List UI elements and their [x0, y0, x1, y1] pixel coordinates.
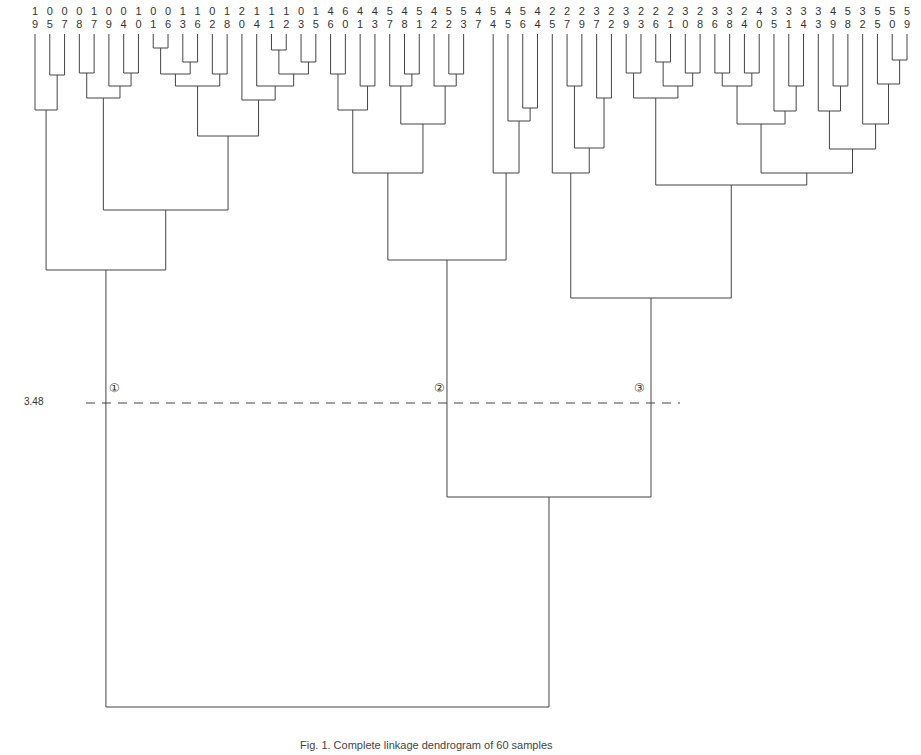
- leaf-label: 1: [224, 5, 230, 17]
- leaf-label: 0: [121, 5, 127, 17]
- leaf-label: 4: [431, 5, 437, 17]
- leaf-label: 7: [91, 18, 97, 30]
- leaf-label: 6: [653, 18, 659, 30]
- leaf-label: 4: [328, 5, 334, 17]
- leaf-label: 5: [47, 18, 53, 30]
- cluster-1-marker: ①: [109, 381, 120, 395]
- leaf-label: 7: [594, 18, 600, 30]
- leaf-label: 4: [254, 18, 260, 30]
- leaf-label: 5: [416, 5, 422, 17]
- leaf-label: 3: [372, 18, 378, 30]
- leaf-label: 6: [342, 5, 348, 17]
- leaf-label: 5: [845, 5, 851, 17]
- leaf-label: 4: [830, 5, 836, 17]
- leaf-label: 5: [889, 5, 895, 17]
- leaf-label: 6: [520, 18, 526, 30]
- leaf-label: 6: [165, 18, 171, 30]
- leaf-label: 0: [150, 5, 156, 17]
- leaf-label: 2: [579, 5, 585, 17]
- leaf-label: 1: [91, 5, 97, 17]
- leaf-label: 3: [860, 5, 866, 17]
- leaf-label: 4: [490, 18, 496, 30]
- leaf-label: 1: [268, 18, 274, 30]
- leaf-label: 5: [490, 5, 496, 17]
- leaf-label: 0: [47, 5, 53, 17]
- leaf-label: 0: [106, 5, 112, 17]
- leaf-label: 4: [357, 5, 363, 17]
- leaf-label: 5: [387, 5, 393, 17]
- leaf-label: 3: [180, 18, 186, 30]
- leaf-label: 2: [638, 5, 644, 17]
- leaf-label: 7: [387, 18, 393, 30]
- leaf-label: 8: [727, 18, 733, 30]
- leaf-label: 8: [845, 18, 851, 30]
- dendrogram-branches: [35, 34, 907, 707]
- leaf-label: 9: [623, 18, 629, 30]
- leaf-label: 0: [61, 5, 67, 17]
- leaf-label: 2: [653, 5, 659, 17]
- leaf-label: 2: [239, 5, 245, 17]
- cluster-2-marker: ②: [434, 381, 445, 395]
- leaf-label: 2: [608, 5, 614, 17]
- leaf-label: 3: [815, 5, 821, 17]
- leaf-label: 7: [61, 18, 67, 30]
- leaf-label: 2: [209, 18, 215, 30]
- leaf-label: 2: [608, 18, 614, 30]
- leaf-label: 2: [431, 18, 437, 30]
- leaf-label: 5: [446, 5, 452, 17]
- leaf-label: 5: [505, 18, 511, 30]
- leaf-label: 8: [76, 18, 82, 30]
- leaf-label: 8: [401, 18, 407, 30]
- leaf-label: 4: [534, 18, 540, 30]
- leaf-label: 1: [195, 5, 201, 17]
- leaf-label: 0: [239, 18, 245, 30]
- leaf-label: 2: [446, 18, 452, 30]
- leaf-label: 0: [682, 18, 688, 30]
- leaf-label: 1: [180, 5, 186, 17]
- leaf-label: 4: [756, 5, 762, 17]
- leaf-label: 2: [667, 5, 673, 17]
- leaf-label: 2: [564, 5, 570, 17]
- leaf-label: 9: [904, 18, 910, 30]
- leaf-label: 4: [475, 5, 481, 17]
- leaf-label: 9: [106, 18, 112, 30]
- leaf-label: 5: [313, 18, 319, 30]
- leaf-label: 2: [283, 18, 289, 30]
- leaf-label: 5: [520, 5, 526, 17]
- leaf-label: 4: [534, 5, 540, 17]
- leaf-label: 4: [372, 5, 378, 17]
- leaf-label: 9: [32, 18, 38, 30]
- leaf-label: 1: [32, 5, 38, 17]
- leaf-label: 1: [313, 5, 319, 17]
- leaf-label: 0: [342, 18, 348, 30]
- leaf-label: 5: [461, 5, 467, 17]
- cluster-3-marker: ③: [634, 381, 645, 395]
- leaf-label: 0: [889, 18, 895, 30]
- leaf-label: 0: [209, 5, 215, 17]
- leaf-label: 3: [298, 18, 304, 30]
- leaf-labels: 1905070817090410010613160218201411120315…: [32, 5, 910, 30]
- leaf-label: 7: [475, 18, 481, 30]
- leaf-label: 0: [135, 18, 141, 30]
- leaf-label: 2: [741, 5, 747, 17]
- leaf-label: 9: [830, 18, 836, 30]
- leaf-label: 3: [594, 5, 600, 17]
- leaf-label: 2: [860, 18, 866, 30]
- leaf-label: 1: [150, 18, 156, 30]
- leaf-label: 0: [76, 5, 82, 17]
- leaf-label: 3: [815, 18, 821, 30]
- leaf-label: 8: [224, 18, 230, 30]
- leaf-label: 1: [268, 5, 274, 17]
- leaf-label: 5: [904, 5, 910, 17]
- leaf-label: 2: [549, 5, 555, 17]
- leaf-label: 0: [165, 5, 171, 17]
- cut-level-label: 3.48: [24, 396, 43, 407]
- leaf-label: 5: [874, 18, 880, 30]
- leaf-label: 4: [800, 18, 806, 30]
- leaf-label: 1: [667, 18, 673, 30]
- leaf-label: 3: [623, 5, 629, 17]
- leaf-label: 5: [874, 5, 880, 17]
- leaf-label: 1: [357, 18, 363, 30]
- leaf-label: 1: [283, 5, 289, 17]
- leaf-label: 4: [121, 18, 127, 30]
